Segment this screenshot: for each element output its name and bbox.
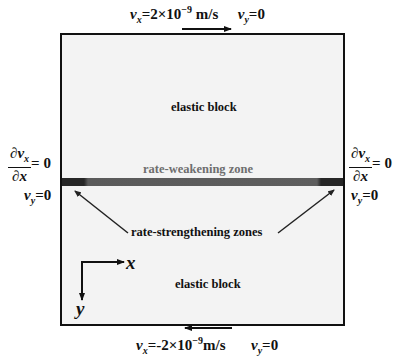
deriv-value: = 0 <box>31 155 51 171</box>
vy-value: =0 <box>249 6 265 22</box>
vx-value: =2×10 <box>142 6 182 22</box>
deriv-value: = 0 <box>372 155 392 171</box>
right-pointer-arrow <box>278 190 334 233</box>
vx-exponent: −9 <box>181 4 192 15</box>
vy-value: =0 <box>362 187 378 203</box>
vx-unit: m/s <box>192 6 218 22</box>
bottom-boundary-condition: vx=-2×10−9m/s vy=0 <box>136 335 278 356</box>
right-vy-condition: vy=0 <box>351 187 378 206</box>
deriv-subscript: x <box>24 153 29 164</box>
vx-exponent: −9 <box>192 335 203 346</box>
vx-symbol: v <box>136 337 143 353</box>
derivative-fraction: ∂vx ∂x <box>8 145 31 185</box>
x-axis-label: x <box>126 252 136 274</box>
right-derivative-condition: ∂vx ∂x = 0 <box>349 145 392 185</box>
top-boundary-condition: vx=2×10−9 m/s vy=0 <box>130 4 265 25</box>
vy-symbol: v <box>24 187 31 203</box>
upper-elastic-block-label: elastic block <box>171 100 237 115</box>
rate-weakening-zone-label: rate-weakening zone <box>143 162 253 177</box>
vy-value: =0 <box>262 337 278 353</box>
vy-value: =0 <box>35 187 51 203</box>
deriv-subscript: x <box>365 153 370 164</box>
arrows-layer <box>0 0 404 361</box>
vx-symbol: v <box>130 6 137 22</box>
deriv-denominator: ∂x <box>353 168 368 185</box>
vx-value: =-2×10 <box>148 337 193 353</box>
lower-elastic-block-label: elastic block <box>175 277 241 292</box>
derivative-fraction: ∂vx ∂x <box>349 145 372 185</box>
left-vy-condition: vy=0 <box>24 187 51 206</box>
left-pointer-arrow <box>75 191 128 233</box>
vy-symbol: v <box>251 337 258 353</box>
rate-strengthening-zones-label: rate-strengthening zones <box>131 225 262 240</box>
deriv-denominator: ∂x <box>12 168 27 185</box>
deriv-numerator: ∂v <box>10 145 24 161</box>
left-derivative-condition: ∂vx ∂x = 0 <box>8 145 51 185</box>
deriv-numerator: ∂v <box>351 145 365 161</box>
y-axis-label: y <box>76 298 84 320</box>
vy-symbol: v <box>351 187 358 203</box>
vx-unit: m/s <box>203 337 226 353</box>
